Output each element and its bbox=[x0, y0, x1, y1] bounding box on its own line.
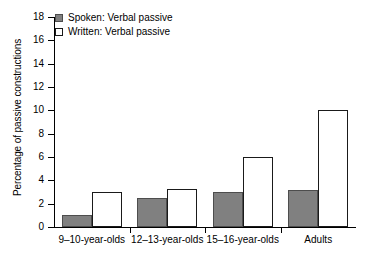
x-axis-label: Adults bbox=[304, 234, 332, 245]
y-axis-tick-label: 0 bbox=[4, 222, 44, 232]
y-axis-tick-label: 8 bbox=[4, 129, 44, 139]
x-axis-group-tick bbox=[281, 228, 282, 233]
y-axis-tick-label: 14 bbox=[4, 59, 44, 69]
bars-layer bbox=[54, 17, 356, 227]
chart-legend: Spoken: Verbal passive Written: Verbal p… bbox=[55, 11, 173, 39]
y-axis-tick bbox=[48, 227, 54, 228]
legend-item-written: Written: Verbal passive bbox=[55, 25, 173, 38]
y-axis-tick-label: 4 bbox=[4, 175, 44, 185]
y-axis-tick-label: 2 bbox=[4, 199, 44, 209]
legend-swatch-written-icon bbox=[55, 28, 63, 36]
bar-written bbox=[92, 192, 122, 227]
x-axis-label: 9–10-year-olds bbox=[58, 234, 125, 245]
x-axis-group-tick bbox=[130, 228, 131, 233]
bar-chart-figure: Percentage of passive constructions 0246… bbox=[0, 0, 381, 255]
y-axis-tick-label: 10 bbox=[4, 105, 44, 115]
bar-spoken bbox=[288, 190, 318, 227]
bar-written bbox=[318, 110, 348, 227]
legend-swatch-spoken-icon bbox=[55, 14, 63, 22]
x-axis-group-tick bbox=[205, 228, 206, 233]
bar-spoken bbox=[62, 215, 92, 227]
y-axis-tick-label: 16 bbox=[4, 35, 44, 45]
legend-label-spoken: Spoken: Verbal passive bbox=[68, 13, 173, 23]
y-axis-tick-label: 6 bbox=[4, 152, 44, 162]
y-axis-tick-label: 18 bbox=[4, 12, 44, 22]
x-axis-label: 15–16-year-olds bbox=[207, 234, 279, 245]
legend-item-spoken: Spoken: Verbal passive bbox=[55, 11, 173, 24]
bar-written bbox=[167, 189, 197, 228]
bar-spoken bbox=[137, 198, 167, 227]
bar-spoken bbox=[213, 192, 243, 227]
legend-label-written: Written: Verbal passive bbox=[68, 27, 170, 37]
bar-written bbox=[243, 157, 273, 227]
y-axis-tick-label: 12 bbox=[4, 82, 44, 92]
x-axis-label: 12–13-year-olds bbox=[131, 234, 203, 245]
